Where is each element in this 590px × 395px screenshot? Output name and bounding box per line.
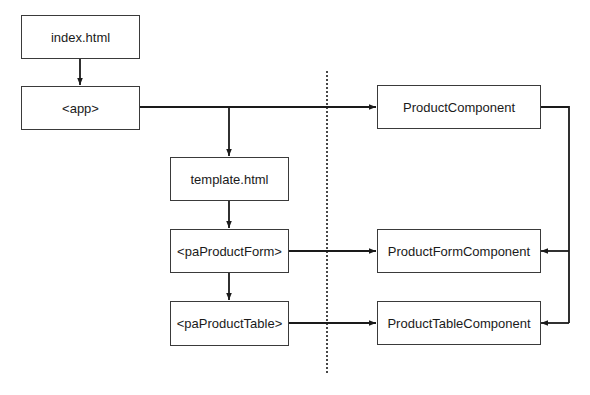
node-product-form-component: ProductFormComponent (377, 229, 541, 273)
node-label: ProductTableComponent (387, 316, 530, 331)
node-product-component: ProductComponent (377, 85, 541, 129)
node-product-table-component: ProductTableComponent (377, 301, 541, 345)
node-label: ProductComponent (403, 100, 515, 115)
node-label: ProductFormComponent (388, 244, 530, 259)
edge-productcomponent-bus (540, 107, 569, 323)
node-label: template.html (190, 172, 268, 187)
node-template-html: template.html (170, 157, 289, 201)
node-label: <paProductTable> (177, 316, 283, 331)
node-label: index.html (51, 30, 110, 45)
node-label: <app> (62, 101, 99, 116)
node-index-html: index.html (21, 15, 140, 59)
node-pa-product-table: <paProductTable> (170, 301, 289, 346)
node-pa-product-form: <paProductForm> (170, 229, 289, 273)
node-app: <app> (21, 86, 140, 130)
node-label: <paProductForm> (177, 244, 282, 259)
